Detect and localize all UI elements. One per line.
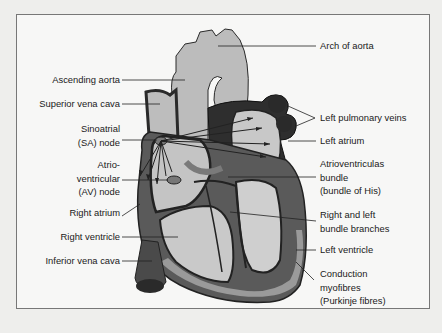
- label-text: Sinoatrial: [78, 122, 120, 136]
- label-text: Atrio-: [77, 158, 120, 172]
- label-right-atrium: Right atrium: [69, 206, 120, 220]
- label-text: Left pulmonary veins: [320, 111, 407, 125]
- label-av-node: Atrio- ventricular (AV) node: [77, 158, 120, 199]
- av-node-shape: [167, 176, 181, 184]
- label-purkinje-fibres: Conduction myofibres (Purkinje fibres): [320, 267, 386, 308]
- label-bundle-branches: Right and left bundle branches: [320, 208, 389, 235]
- pulmonary-vein-lower: [276, 116, 292, 132]
- label-left-ventricle: Left ventricle: [320, 243, 373, 257]
- pulmonary-vein-upper: [268, 95, 286, 113]
- label-arch-of-aorta: Arch of aorta: [320, 39, 374, 53]
- label-text: Right and left: [320, 208, 389, 222]
- label-text: Arch of aorta: [320, 39, 374, 53]
- label-text: ventricular: [77, 172, 120, 186]
- label-text: Ascending aorta: [52, 73, 120, 87]
- label-text: Right ventricle: [61, 230, 120, 244]
- label-bundle-of-his: Atrioventriculas bundle (bundle of His): [320, 157, 384, 198]
- label-text: Superior vena cava: [39, 97, 120, 111]
- label-superior-vena-cava: Superior vena cava: [39, 97, 120, 111]
- label-text: (AV) node: [77, 185, 120, 199]
- label-text: Left atrium: [320, 134, 364, 148]
- label-text: Right atrium: [69, 206, 120, 220]
- label-text: myofibres: [320, 281, 386, 295]
- label-text: Inferior vena cava: [45, 254, 120, 268]
- label-text: Atrioventriculas: [320, 157, 384, 171]
- label-text: (SA) node: [78, 136, 120, 150]
- label-sa-node: Sinoatrial (SA) node: [78, 122, 120, 149]
- label-text: Conduction: [320, 267, 386, 281]
- label-inferior-vena-cava: Inferior vena cava: [45, 254, 120, 268]
- label-text: bundle: [320, 171, 384, 185]
- label-text: bundle branches: [320, 222, 389, 236]
- label-left-pulmonary-veins: Left pulmonary veins: [320, 111, 407, 125]
- label-left-atrium: Left atrium: [320, 134, 364, 148]
- label-text: (bundle of His): [320, 184, 384, 198]
- label-right-ventricle: Right ventricle: [61, 230, 120, 244]
- label-ascending-aorta: Ascending aorta: [52, 73, 120, 87]
- label-text: Left ventricle: [320, 243, 373, 257]
- label-text: (Purkinje fibres): [320, 294, 386, 308]
